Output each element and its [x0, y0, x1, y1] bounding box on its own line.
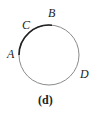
point-label-c: C: [22, 18, 31, 32]
circle-diagram: A B C D (d): [0, 0, 95, 116]
point-label-d: D: [79, 67, 89, 81]
point-label-a: A: [6, 47, 15, 61]
point-label-b: B: [48, 6, 56, 20]
figure-caption: (d): [38, 93, 53, 107]
